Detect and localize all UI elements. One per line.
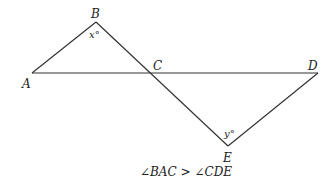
point-label-C: C — [153, 59, 162, 73]
segment-BE — [96, 22, 228, 146]
point-label-B: B — [90, 7, 100, 21]
angle-label-x: x° — [89, 29, 100, 40]
segment-DE — [228, 73, 318, 146]
diagram-canvas: B A C D E x° y° ∠BAC > ∠CDE — [0, 0, 333, 183]
point-label-A: A — [21, 77, 31, 91]
caption: ∠BAC > ∠CDE — [140, 165, 232, 179]
point-label-E: E — [222, 151, 232, 165]
point-label-D: D — [307, 59, 318, 73]
segment-AB — [32, 22, 96, 73]
geometry-diagram: B A C D E x° y° ∠BAC > ∠CDE — [0, 0, 333, 183]
angle-label-y: y° — [223, 128, 235, 139]
